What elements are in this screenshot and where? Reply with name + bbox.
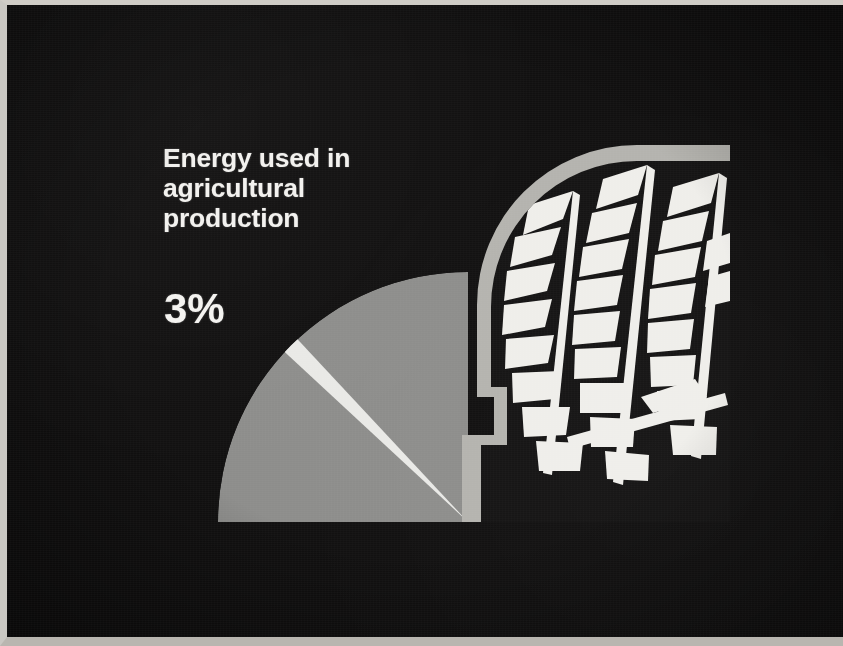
pie-chart bbox=[218, 272, 468, 522]
slide-field: Energy used in agricultural production 3… bbox=[7, 5, 843, 637]
illustration-graphic bbox=[7, 5, 730, 637]
headline-block: Energy used in agricultural production bbox=[163, 143, 463, 233]
headline-line-1: Energy used in bbox=[163, 143, 463, 173]
headline-line-3: production bbox=[163, 203, 463, 233]
percentage-callout: 3% bbox=[164, 286, 225, 332]
slide-canvas: Energy used in agricultural production 3… bbox=[0, 0, 843, 646]
headline-line-2: agricultural bbox=[163, 173, 463, 203]
